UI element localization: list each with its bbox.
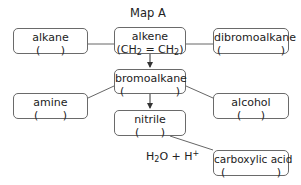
- close-paren: ): [281, 44, 285, 57]
- close-paren: ): [176, 85, 180, 98]
- node-label: alkene: [115, 28, 185, 43]
- node-label: alcohol: [214, 94, 288, 109]
- open-paren: (: [36, 44, 40, 57]
- open-paren: (: [135, 126, 139, 139]
- close-paren: ): [277, 166, 281, 179]
- node-label: bromoalkane: [115, 70, 185, 85]
- node-label: dibromoalkane: [214, 29, 288, 44]
- open-paren: (: [217, 44, 221, 57]
- node-alcohol: alcohol (): [213, 93, 289, 119]
- close-paren: ): [261, 109, 265, 122]
- open-paren: (: [120, 85, 124, 98]
- open-paren: (: [34, 109, 38, 122]
- node-bromoalkane: bromoalkane (): [114, 69, 186, 94]
- node-alkane: alkane (): [13, 28, 88, 54]
- node-carboxylic-acid: carboxylic acid (): [213, 150, 289, 176]
- close-paren: ): [161, 126, 165, 139]
- node-label: carboxylic acid: [214, 151, 288, 166]
- alkene-formula: (CH2 = CH2): [117, 43, 184, 56]
- node-label: alkane: [14, 29, 87, 44]
- node-nitrile: nitrile (): [114, 110, 186, 136]
- reagent-label: H2O + H+: [146, 149, 199, 164]
- node-label: nitrile: [115, 111, 185, 126]
- open-paren: (: [221, 166, 225, 179]
- close-paren: ): [61, 44, 65, 57]
- node-dibromoalkane: dibromoalkane (): [213, 28, 289, 54]
- node-amine: amine (): [13, 93, 88, 119]
- node-label: amine: [14, 94, 87, 109]
- close-paren: ): [63, 109, 67, 122]
- map-title: Map A: [130, 6, 166, 20]
- open-paren: (: [237, 109, 241, 122]
- node-alkene: alkene (CH2 = CH2): [114, 27, 186, 54]
